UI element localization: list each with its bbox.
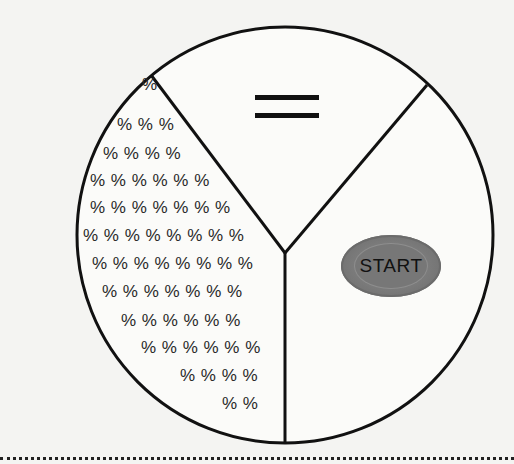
percent-row: % % % % % % % %	[92, 254, 253, 274]
percent-row: % % % %	[103, 144, 181, 164]
percent-row: % % % %	[180, 366, 258, 386]
percent-row: % % % % % % % %	[83, 226, 244, 246]
start-button-label: START	[341, 235, 441, 297]
percent-row: % % % % % %	[90, 171, 209, 191]
percent-row: % % % % % %	[141, 338, 260, 358]
start-button[interactable]: START	[341, 235, 441, 297]
percent-row: % %	[222, 394, 258, 414]
dotted-divider	[0, 457, 514, 460]
percent-row: % % % % % % %	[90, 198, 230, 218]
percent-row: % % % % % % %	[102, 282, 242, 302]
percent-row: % % % % % %	[121, 311, 240, 331]
percent-row: % % %	[117, 115, 174, 135]
percent-row: %	[142, 75, 157, 95]
